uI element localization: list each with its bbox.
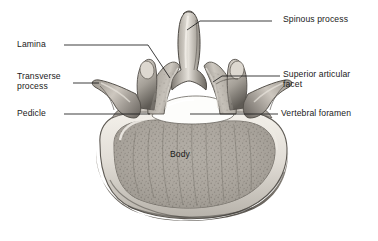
spinous-process <box>171 11 206 90</box>
vertebral-body <box>96 110 288 221</box>
label-spinous-process: Spinous process <box>283 14 348 24</box>
label-pedicle: Pedicle <box>17 108 46 118</box>
label-vertebral-foramen: Vertebral foramen <box>281 108 351 118</box>
leader-spinous-process <box>187 21 272 30</box>
vertebra-illustration <box>0 0 378 241</box>
label-transverse-process: Transverse process <box>17 71 61 91</box>
spinous-process-shape <box>171 11 206 90</box>
label-lamina: Lamina <box>17 39 46 49</box>
vertebra-figure <box>0 0 378 241</box>
label-body: Body <box>170 149 190 159</box>
label-superior-articular-facet: Superior articular facet <box>283 69 350 89</box>
